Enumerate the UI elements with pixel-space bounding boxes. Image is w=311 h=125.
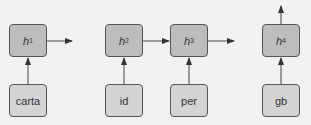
node-subscript: 1	[29, 37, 33, 44]
hidden-node-h3: h3	[170, 24, 208, 57]
hidden-node-h2: h2	[105, 24, 143, 57]
input-node-carta: carta	[9, 84, 47, 117]
node-label: id	[120, 95, 129, 107]
node-label: carta	[16, 95, 40, 107]
hidden-node-h4: h4	[262, 24, 300, 57]
input-node-per: per	[170, 84, 208, 117]
node-label: gb	[275, 95, 287, 107]
node-subscript: 4	[282, 37, 286, 44]
input-node-id: id	[105, 84, 143, 117]
node-label: per	[181, 95, 197, 107]
hidden-node-h1: h1	[9, 24, 47, 57]
node-subscript: 3	[190, 37, 194, 44]
input-node-gb: gb	[262, 84, 300, 117]
node-subscript: 2	[125, 37, 129, 44]
